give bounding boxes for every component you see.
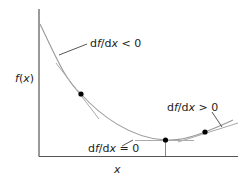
y-axis-label: f(x) (15, 72, 34, 85)
point-negative-slope (78, 91, 83, 96)
x-axis-label: x (113, 163, 121, 176)
tangent-line-negative (56, 63, 99, 119)
tangent-line-positive (178, 123, 238, 142)
label-df-dx-negative: df/dx < 0 (90, 37, 141, 50)
point-positive-slope (202, 129, 207, 134)
label-df-dx-positive: df/dx > 0 (167, 101, 218, 114)
point-minimum (163, 137, 168, 142)
leader-line-negative (59, 44, 87, 55)
derivative-diagram: f(x) x df/dx < 0 df/dx = 0 df/dx > 0 (0, 0, 249, 182)
leader-line-positive (212, 112, 222, 127)
label-df-dx-zero: df/dx = 0 (88, 142, 139, 155)
